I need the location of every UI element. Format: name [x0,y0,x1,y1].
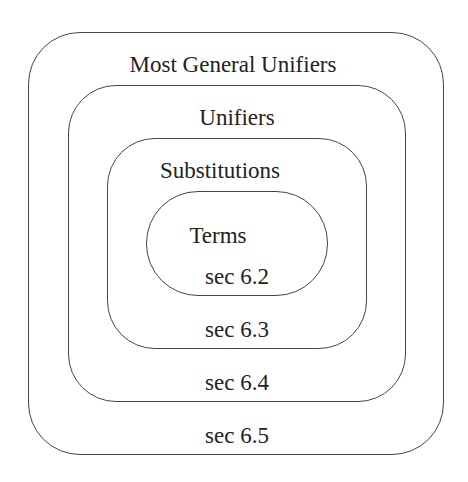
label-substitutions: Substitutions [0,158,454,184]
label-unifiers: Unifiers [3,105,468,131]
section-most-general-unifiers: sec 6.5 [3,423,468,449]
label-terms: Terms [0,223,452,249]
section-terms: sec 6.2 [3,264,468,290]
section-substitutions: sec 6.3 [3,317,468,343]
section-unifiers: sec 6.4 [3,370,468,396]
label-most-general-unifiers: Most General Unifiers [0,52,467,78]
